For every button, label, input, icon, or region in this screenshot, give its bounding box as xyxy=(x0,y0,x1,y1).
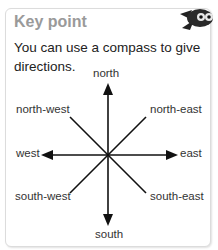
label-east: east xyxy=(180,147,202,159)
east-arrowhead xyxy=(166,150,178,160)
label-south-east: south-east xyxy=(150,190,204,202)
label-south-west: south-west xyxy=(15,190,71,202)
compass-diagram xyxy=(0,0,218,250)
label-south: south xyxy=(95,228,123,240)
label-west: west xyxy=(16,147,40,159)
south-arrowhead xyxy=(103,214,113,226)
west-arrowhead xyxy=(41,150,53,160)
north-arrowhead xyxy=(103,83,113,95)
label-north: north xyxy=(93,67,119,79)
label-north-west: north-west xyxy=(16,103,70,115)
label-north-east: north-east xyxy=(150,103,202,115)
